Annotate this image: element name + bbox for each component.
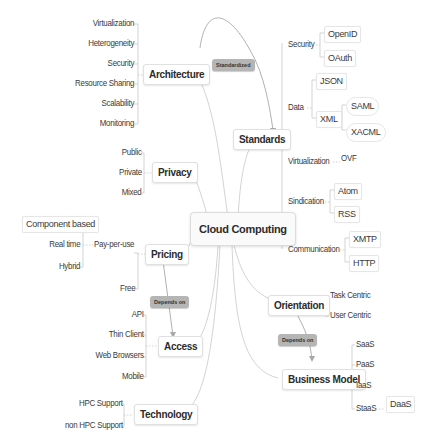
privacy-item-public[interactable]: Public bbox=[122, 147, 142, 158]
topic-standards[interactable]: Standards bbox=[233, 129, 291, 150]
pricing-item-pay-per-use[interactable]: Pay-per-use bbox=[94, 239, 134, 250]
sindication-item-atom[interactable]: Atom bbox=[334, 183, 362, 200]
standards-security[interactable]: Security bbox=[288, 39, 315, 50]
access-item-web-browsers[interactable]: Web Browsers bbox=[96, 350, 144, 361]
topic-architecture[interactable]: Architecture bbox=[143, 64, 210, 85]
architecture-item-security[interactable]: Security bbox=[107, 58, 134, 69]
relation-label-standardized[interactable]: Standardized bbox=[212, 59, 255, 71]
xml-item-saml[interactable]: SAML bbox=[346, 97, 379, 116]
architecture-item-monitoring[interactable]: Monitoring bbox=[100, 118, 134, 129]
topic-business-model[interactable]: Business Model bbox=[282, 369, 366, 390]
architecture-item-heterogeneity[interactable]: Heterogeneity bbox=[88, 38, 134, 49]
business-model-item-iaas[interactable]: IaaS bbox=[356, 380, 371, 391]
mind-map-canvas: Virtualization Heterogeneity Security Re… bbox=[0, 0, 425, 444]
access-item-mobile[interactable]: Mobile bbox=[122, 371, 144, 382]
topic-pricing[interactable]: Pricing bbox=[145, 244, 189, 265]
technology-item-non-hpc-support[interactable]: non HPC Support bbox=[65, 420, 123, 431]
communication-item-http[interactable]: HTTP bbox=[349, 255, 379, 272]
central-topic-cloud-computing[interactable]: Cloud Computing bbox=[190, 212, 296, 246]
topic-access[interactable]: Access bbox=[158, 336, 203, 357]
privacy-item-private[interactable]: Private bbox=[119, 167, 142, 178]
relation-label-depends-on-orientation-business[interactable]: Depends on bbox=[278, 334, 317, 346]
communication-item-xmtp[interactable]: XMTP bbox=[349, 231, 381, 248]
security-item-oauth[interactable]: OAuth bbox=[324, 50, 356, 67]
pricing-item-free[interactable]: Free bbox=[120, 283, 135, 294]
standards-sindication[interactable]: Sindication bbox=[288, 196, 324, 207]
pay-per-use-item-real-time[interactable]: Real time bbox=[49, 239, 80, 250]
security-item-openid[interactable]: OpenID bbox=[324, 26, 361, 43]
technology-item-hpc-support[interactable]: HPC Support bbox=[79, 398, 123, 409]
orientation-item-task-centric[interactable]: Task Centric bbox=[330, 290, 370, 301]
data-item-json[interactable]: JSON bbox=[316, 73, 347, 90]
business-model-item-saas[interactable]: SaaS bbox=[356, 339, 374, 350]
orientation-item-user-centric[interactable]: User Centric bbox=[330, 310, 371, 321]
pay-per-use-item-hybrid[interactable]: Hybrid bbox=[59, 261, 80, 272]
business-model-item-staas[interactable]: StaaS bbox=[356, 403, 376, 414]
pay-per-use-item-component-based[interactable]: Component based bbox=[22, 216, 99, 233]
standards-communication[interactable]: Communication bbox=[288, 244, 340, 255]
access-item-thin-client[interactable]: Thin Client bbox=[109, 329, 144, 340]
relation-label-depends-on-pricing-access[interactable]: Depends on bbox=[150, 296, 189, 308]
privacy-item-mixed[interactable]: Mixed bbox=[122, 187, 142, 198]
sindication-item-rss[interactable]: RSS bbox=[334, 206, 360, 223]
standards-virtualization[interactable]: Virtualization bbox=[288, 156, 330, 167]
architecture-item-scalability[interactable]: Scalability bbox=[101, 98, 134, 109]
architecture-item-resource-sharing[interactable]: Resource Sharing bbox=[75, 78, 134, 89]
virtualization-item-ovf[interactable]: OVF bbox=[341, 153, 356, 164]
access-item-api[interactable]: API bbox=[132, 309, 144, 320]
data-item-xml[interactable]: XML bbox=[316, 111, 342, 128]
architecture-item-virtualization[interactable]: Virtualization bbox=[92, 18, 134, 29]
staas-item-daas[interactable]: DaaS bbox=[386, 396, 415, 413]
standards-data[interactable]: Data bbox=[288, 102, 304, 113]
business-model-item-paas[interactable]: PaaS bbox=[356, 359, 374, 370]
topic-technology[interactable]: Technology bbox=[134, 404, 198, 425]
topic-orientation[interactable]: Orientation bbox=[268, 295, 330, 316]
xml-item-xacml[interactable]: XACML bbox=[346, 123, 386, 142]
topic-privacy[interactable]: Privacy bbox=[152, 162, 198, 183]
